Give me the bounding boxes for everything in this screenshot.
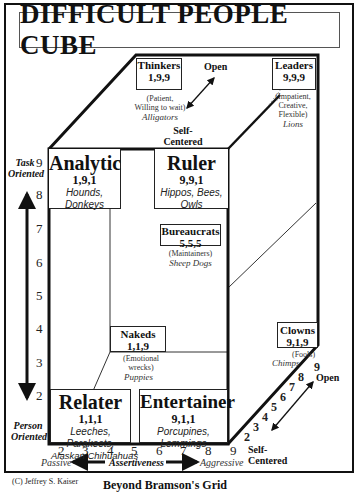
assertiveness-label: Assertiveness — [109, 457, 164, 468]
analytic-animals-1: Hounds, — [49, 187, 120, 199]
leaders-desc: (Impatient, Creative, Flexible) Lions — [268, 92, 318, 129]
person-oriented-label: Person Oriented — [11, 420, 45, 442]
analytic-box: Analytic 1,9,1 Hounds, Donkeys — [49, 149, 121, 209]
nakeds-label: Nakeds — [111, 328, 165, 340]
clowns-label: Clowns — [278, 324, 317, 336]
top-self-2: Centered — [158, 136, 208, 147]
leaders-desc-3: Flexible) — [268, 110, 318, 119]
v-tick-3: 3 — [36, 355, 43, 371]
person-label: Person — [11, 420, 45, 431]
thinkers-desc-2: Willing to wait) — [128, 103, 192, 112]
d-tick-5: 5 — [271, 400, 277, 415]
nakeds-animals: Puppies — [124, 372, 153, 382]
d-tick-4: 4 — [262, 410, 268, 425]
leaders-label: Leaders — [273, 59, 315, 71]
v-tick-7: 7 — [36, 221, 43, 237]
h-tick-7: 7 — [180, 443, 187, 459]
nakeds-desc: (Emotional wrecks) — [115, 354, 167, 372]
thinkers-desc-1: (Patient, — [128, 94, 192, 103]
footer-subtitle: Beyond Bramson's Grid — [103, 478, 227, 493]
v-tick-6: 6 — [36, 255, 43, 271]
v-tick-9: 9 — [36, 155, 43, 171]
ruler-box: Ruler 9,9,1 Hippos, Bees, Owls — [154, 149, 228, 209]
nakeds-box: Nakeds 1,1,9 — [110, 326, 166, 352]
passive-label: Passive — [41, 457, 72, 468]
top-self-1: Self- — [158, 125, 208, 136]
clowns-box: Clowns 9,1,9 — [277, 322, 318, 348]
bureaucrats-animals: Sheep Dogs — [158, 258, 223, 268]
h-tick-3: 3 — [82, 443, 89, 459]
top-self-centered-label: Self- Centered — [158, 125, 208, 147]
bottom-self-centered-label: Self- Centered — [248, 444, 287, 466]
v-tick-2: 2 — [36, 388, 43, 404]
analytic-animals-2: Donkeys — [49, 199, 120, 211]
thinkers-code: 1,9,9 — [137, 71, 181, 83]
v-tick-5: 5 — [36, 288, 43, 304]
relater-label: Relater — [51, 391, 130, 413]
d-tick-6: 6 — [280, 390, 286, 405]
clowns-code: 9,1,9 — [278, 336, 317, 348]
bottom-open-label: Open — [316, 372, 339, 383]
d-tick-2: 2 — [244, 430, 250, 445]
thinkers-desc: (Patient, Willing to wait) Alligators — [128, 94, 192, 122]
aggressive-label: Aggressive — [200, 457, 244, 468]
v-tick-4: 4 — [36, 321, 43, 337]
ruler-animals-1: Hippos, Bees, — [155, 187, 228, 199]
relater-animals-1: Leeches, — [51, 426, 130, 438]
thinkers-animals: Alligators — [128, 112, 192, 122]
bureaucrats-desc: (Maintainers) Sheep Dogs — [158, 249, 223, 268]
bureaucrats-box: Bureaucrats 5,5,5 — [160, 224, 221, 246]
bureaucrats-code: 5,5,5 — [161, 237, 220, 249]
bureaucrats-desc-1: (Maintainers) — [158, 249, 223, 258]
leaders-code: 9,9,9 — [273, 71, 315, 83]
d-tick-3: 3 — [253, 420, 259, 435]
bottom-self-2: Centered — [248, 455, 287, 466]
clowns-animals: Chimps — [272, 358, 300, 368]
oriented-label-bottom: Oriented — [11, 431, 45, 442]
v-tick-8: 8 — [36, 187, 43, 203]
leaders-animals: Lions — [268, 119, 318, 129]
bureaucrats-label: Bureaucrats — [161, 225, 220, 237]
relater-code: 1,1,1 — [51, 413, 130, 426]
leaders-desc-1: (Impatient, — [268, 92, 318, 101]
analytic-code: 1,9,1 — [49, 174, 120, 187]
thinkers-box: Thinkers 1,9,9 — [136, 58, 182, 90]
ruler-code: 9,9,1 — [155, 174, 228, 187]
relater-box: Relater 1,1,1 Leeches, Parakeets, Alaska… — [50, 389, 131, 443]
thinkers-label: Thinkers — [137, 59, 181, 71]
entertainer-label: Entertainer — [140, 391, 227, 413]
copyright-text: (C) Jeffrey S. Kaiser — [12, 477, 78, 486]
analytic-label: Analytic — [49, 152, 120, 174]
d-tick-7: 7 — [289, 380, 295, 395]
leaders-box: Leaders 9,9,9 — [272, 58, 316, 90]
leaders-desc-2: Creative, — [268, 101, 318, 110]
ruler-label: Ruler — [155, 152, 228, 174]
bottom-self-1: Self- — [248, 444, 287, 455]
nakeds-desc-2: wrecks) — [115, 363, 167, 372]
d-tick-8: 8 — [298, 370, 304, 385]
entertainer-animals-1: Porcupines, — [140, 426, 227, 438]
top-open-label: Open — [204, 61, 227, 72]
entertainer-box: Entertainer 9,1,1 Porcupines, Lemmings — [139, 389, 228, 443]
nakeds-desc-1: (Emotional — [115, 354, 167, 363]
entertainer-code: 9,1,1 — [140, 413, 227, 426]
nakeds-code: 1,1,9 — [111, 340, 165, 352]
ruler-animals-2: Owls — [155, 199, 228, 211]
